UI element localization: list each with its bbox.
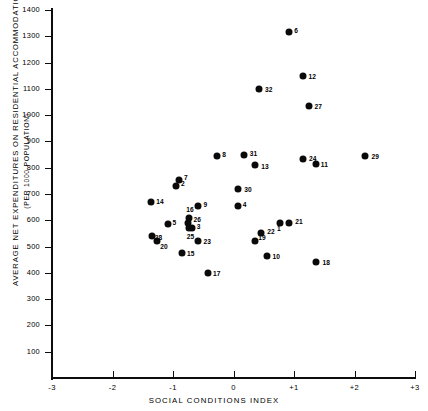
data-point-label: 25 — [187, 233, 195, 240]
data-point-label: 7 — [184, 174, 188, 181]
data-point-label: 30 — [244, 186, 252, 193]
y-tick-mark — [45, 141, 52, 142]
data-point — [179, 250, 186, 257]
data-point — [313, 259, 320, 266]
y-tick-mark — [45, 168, 52, 169]
data-point-label: 11 — [321, 161, 328, 168]
y-tick-label: 1000 — [22, 111, 40, 119]
x-tick-label: -3 — [48, 383, 56, 392]
data-point-label: 20 — [160, 243, 168, 250]
data-point — [362, 152, 369, 159]
y-tick-label: 200 — [27, 321, 40, 329]
data-point — [164, 221, 171, 228]
y-tick-label: 800 — [27, 164, 40, 172]
data-point-label: 5 — [173, 219, 177, 226]
y-tick-mark — [45, 10, 52, 11]
y-tick-mark — [45, 63, 52, 64]
data-point — [176, 176, 183, 183]
y-tick-mark — [45, 194, 52, 195]
data-point-label: 24 — [309, 155, 317, 162]
y-tick-mark — [45, 89, 52, 90]
data-point-label: 32 — [265, 86, 273, 93]
y-tick-label: 400 — [27, 269, 40, 277]
y-tick-label: 1100 — [23, 85, 40, 93]
x-tick-label: +1 — [289, 383, 298, 392]
y-tick-label: 100 — [27, 348, 40, 356]
data-point — [205, 269, 212, 276]
data-point-label: 23 — [203, 238, 211, 245]
x-tick-label: +2 — [350, 383, 359, 392]
data-point — [173, 183, 180, 190]
data-point — [305, 102, 312, 109]
y-tick-mark — [45, 352, 52, 353]
y-tick-mark — [45, 299, 52, 300]
y-tick-mark — [45, 247, 52, 248]
scatter-plot-figure: AVERAGE NET EXPENDITURES ON RESIDENTIAL … — [0, 0, 428, 411]
data-point — [255, 85, 262, 92]
data-point-label: 18 — [322, 259, 330, 266]
data-point-label: 6 — [294, 27, 298, 34]
x-tick-label: -1 — [169, 383, 177, 392]
data-point — [148, 198, 155, 205]
x-tick-label: -2 — [109, 383, 117, 392]
data-point-label: 31 — [250, 150, 258, 157]
data-point — [214, 152, 221, 159]
y-tick-label: 1300 — [22, 32, 40, 40]
y-tick-mark — [45, 273, 52, 274]
data-point — [300, 155, 307, 162]
data-point-label: 17 — [213, 270, 221, 277]
data-point-label: 21 — [295, 218, 303, 225]
data-point — [252, 162, 259, 169]
plot-area — [52, 10, 415, 378]
data-point — [240, 152, 247, 159]
y-tick-mark — [45, 325, 52, 326]
data-point-label: 8 — [222, 151, 226, 158]
data-point-label: 10 — [272, 253, 280, 260]
data-point-label: 28 — [155, 234, 163, 241]
data-point — [286, 29, 293, 36]
data-point-label: 14 — [156, 198, 164, 205]
data-point-label: 15 — [187, 250, 195, 257]
data-point — [286, 219, 293, 226]
data-point — [195, 202, 202, 209]
data-point — [234, 202, 241, 209]
data-point-label: 27 — [315, 103, 323, 110]
data-point — [264, 252, 271, 259]
y-tick-label: 1200 — [22, 59, 40, 67]
data-point-label: 9 — [203, 201, 207, 208]
y-tick-mark — [45, 115, 52, 116]
x-tick-mark — [415, 371, 416, 378]
y-tick-label: 600 — [27, 216, 40, 224]
data-point — [299, 72, 306, 79]
data-point-label: 16 — [186, 206, 194, 213]
y-tick-mark — [45, 36, 52, 37]
data-point — [258, 230, 265, 237]
x-tick-label: 0 — [231, 383, 236, 392]
y-tick-label: 900 — [27, 137, 40, 145]
y-axis-title-line1: AVERAGE NET EXPENDITURES ON RESIDENTIAL … — [11, 0, 20, 286]
x-tick-label: +3 — [410, 383, 419, 392]
y-tick-mark — [45, 220, 52, 221]
y-tick-label: 300 — [27, 295, 40, 303]
y-tick-label: 700 — [27, 190, 40, 198]
data-point — [195, 238, 202, 245]
data-point — [184, 219, 191, 226]
data-point-label: 12 — [309, 73, 317, 80]
data-point-label: 26 — [194, 216, 202, 223]
data-point-label: 3 — [197, 223, 201, 230]
data-point-label: 1 — [277, 225, 281, 232]
data-point-label: 4 — [243, 201, 247, 208]
data-point — [235, 185, 242, 192]
x-axis-title: SOCIAL CONDITIONS INDEX — [0, 396, 428, 405]
data-point-label: 13 — [261, 163, 269, 170]
y-tick-label: 500 — [27, 243, 40, 251]
data-point-label: 29 — [371, 153, 379, 160]
y-tick-label: 1400 — [22, 6, 40, 14]
data-point-label: 22 — [267, 228, 275, 235]
